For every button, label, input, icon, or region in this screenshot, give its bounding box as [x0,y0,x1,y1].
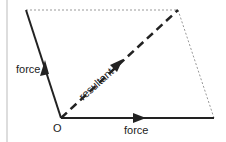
right-dotted-line [178,10,214,118]
arrowhead-bottom-icon [133,113,146,123]
label-resultant: resultant [76,65,115,102]
label-origin: O [53,122,62,134]
parallelogram-diagram: force force O resultant [0,0,226,142]
arrowhead-left-icon [40,60,49,76]
label-force-bottom: force [124,124,148,136]
label-force-left: force [16,63,40,75]
